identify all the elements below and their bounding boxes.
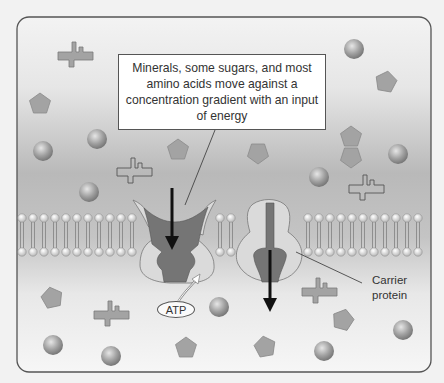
atp-label: ATP	[157, 301, 195, 318]
callout-box: Minerals, some sugars, and most amino ac…	[118, 54, 326, 130]
atp-text: ATP	[166, 304, 187, 316]
carrier-label-line1: Carrier	[372, 273, 407, 288]
callout-text: Minerals, some sugars, and most amino ac…	[125, 60, 319, 124]
carrier-label-line2: protein	[372, 288, 407, 303]
carrier-protein-label: Carrier protein	[372, 273, 407, 303]
